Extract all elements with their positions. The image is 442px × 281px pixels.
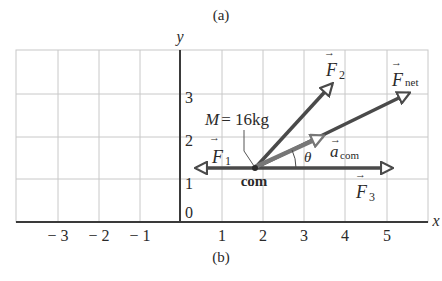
x-tick: 5 <box>383 227 391 244</box>
y-tick: 0 <box>185 204 193 221</box>
svg-text:→: → <box>391 56 402 68</box>
label-f2-main: F <box>325 60 338 80</box>
label-fnet-main: F <box>391 70 404 90</box>
label-f2: → F 2 <box>324 46 345 82</box>
x-tick: − 3 <box>47 227 68 244</box>
angle-theta-label: θ <box>304 149 312 165</box>
y-axis-label: y <box>174 28 184 46</box>
y-tick: 1 <box>185 175 193 192</box>
caption-a: (a) <box>213 7 230 24</box>
svg-text:→: → <box>355 168 366 180</box>
svg-text:→: → <box>324 46 335 58</box>
x-tick: 4 <box>341 227 349 244</box>
x-tick: − 2 <box>88 227 109 244</box>
com-point <box>252 165 258 171</box>
svg-text:→: → <box>209 131 220 143</box>
y-tick: 3 <box>185 89 193 106</box>
label-f2-sub: 2 <box>339 68 345 82</box>
label-f1-main: F <box>211 147 224 167</box>
com-label: com <box>241 173 268 189</box>
x-tick: 1 <box>218 227 226 244</box>
x-tick: − 1 <box>129 227 150 244</box>
vector-acom-arrow <box>255 136 323 167</box>
label-acom-main: a <box>330 142 339 161</box>
y-tick-labels: 0 1 2 3 <box>185 89 193 221</box>
force-diagram: (a) (b) y x − 3 − 2 − 1 1 2 3 4 5 0 1 2 … <box>0 0 442 281</box>
label-f3: → F 3 <box>355 168 375 204</box>
label-f3-main: F <box>355 182 368 202</box>
mass-leader-line <box>244 130 254 166</box>
y-tick: 2 <box>185 132 193 149</box>
label-fnet: → F net <box>391 56 418 90</box>
x-tick: 3 <box>300 227 308 244</box>
label-fnet-sub: net <box>405 76 418 88</box>
label-acom-sub: com <box>340 149 359 161</box>
label-f3-sub: 3 <box>369 190 375 204</box>
mass-label: M= 16kg <box>204 110 270 129</box>
caption-b: (b) <box>212 249 230 266</box>
angle-arc <box>292 150 296 168</box>
label-f1-sub: 1 <box>225 154 231 168</box>
x-tick: 2 <box>259 227 267 244</box>
x-tick-labels: − 3 − 2 − 1 1 2 3 4 5 <box>47 227 391 244</box>
x-axis-label: x <box>431 212 439 229</box>
